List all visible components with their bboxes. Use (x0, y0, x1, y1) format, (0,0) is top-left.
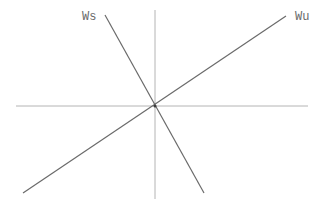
unstable-manifold-label: Wu (295, 10, 309, 24)
fixed-point-origin (154, 105, 157, 108)
phase-portrait-diagram: Wu Ws (0, 0, 324, 208)
stable-manifold-label: Ws (82, 10, 96, 24)
